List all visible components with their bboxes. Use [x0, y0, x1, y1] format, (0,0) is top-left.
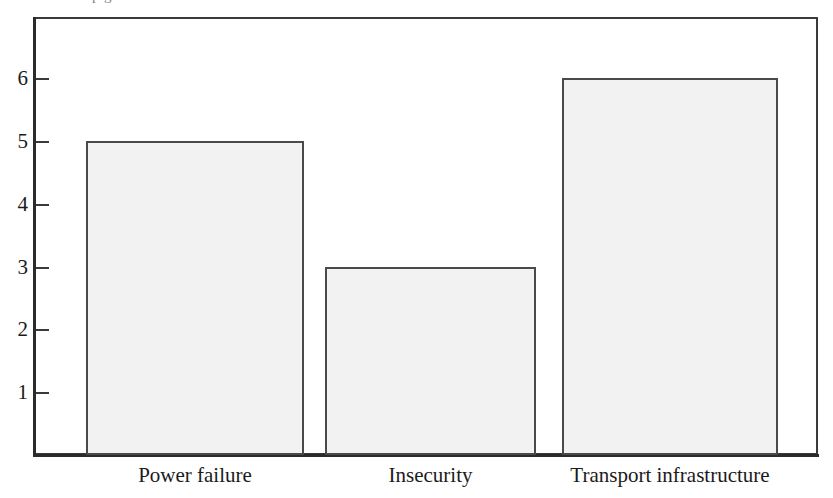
bar-transport-infrastructure [562, 78, 778, 455]
y-axis-line [33, 17, 36, 457]
x-label-transport-infrastructure: Transport infrastructure [548, 462, 792, 488]
y-tick-5 [36, 141, 49, 143]
y-tick-6 [36, 78, 49, 80]
bar-chart-figure: p g 6 5 4 3 2 1 Power failure Insecurity… [0, 0, 833, 498]
x-label-power-failure: Power failure [86, 462, 304, 488]
cropped-caption-fragment: p g [0, 0, 833, 3]
y-tick-label-5: 5 [0, 131, 28, 152]
y-tick-4 [36, 204, 49, 206]
y-tick-1 [36, 392, 49, 394]
y-tick-2 [36, 329, 49, 331]
y-tick-label-4: 4 [0, 194, 28, 215]
y-tick-label-6: 6 [0, 68, 28, 89]
y-tick-label-2: 2 [0, 319, 28, 340]
bar-insecurity [325, 267, 536, 455]
bar-power-failure [86, 141, 304, 455]
y-tick-label-3: 3 [0, 257, 28, 278]
y-tick-3 [36, 267, 49, 269]
x-label-insecurity: Insecurity [325, 462, 536, 488]
y-tick-label-1: 1 [0, 382, 28, 403]
